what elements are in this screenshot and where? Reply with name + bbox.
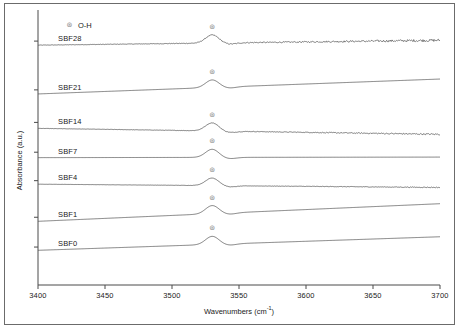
figure-container: 3400345035003550360036503700 SBF28SBF21S… — [0, 0, 460, 330]
legend: ⊛ O-H — [66, 21, 92, 30]
x-tick-label: 3600 — [297, 291, 315, 300]
x-tick-label: 3400 — [29, 291, 47, 300]
series-label-sbf0: SBF0 — [58, 239, 77, 248]
series-label-sbf28: SBF28 — [58, 34, 81, 43]
chart-canvas — [0, 0, 460, 330]
y-axis-title: Absorbance (a.u.) — [15, 101, 24, 221]
x-tick-label: 3550 — [230, 291, 248, 300]
spectra-curves — [38, 35, 440, 251]
series-label-sbf21: SBF21 — [58, 83, 81, 92]
x-tick-label: 3450 — [96, 291, 114, 300]
legend-label-oh: O-H — [78, 21, 92, 30]
x-axis-title: Wavenumbers (cm-1) — [204, 305, 274, 316]
x-tick-label: 3500 — [163, 291, 181, 300]
x-axis-title-base: Wavenumbers (cm — [204, 307, 267, 316]
x-tick-label: 3700 — [431, 291, 449, 300]
series-label-sbf7: SBF7 — [58, 147, 77, 156]
x-axis-title-close: ) — [272, 307, 275, 316]
series-label-sbf1: SBF1 — [58, 210, 77, 219]
circle-marker-icon: ⊛ — [66, 22, 73, 29]
series-label-sbf14: SBF14 — [58, 117, 81, 126]
axes — [34, 10, 440, 289]
series-label-sbf4: SBF4 — [58, 173, 77, 182]
x-tick-label: 3650 — [364, 291, 382, 300]
